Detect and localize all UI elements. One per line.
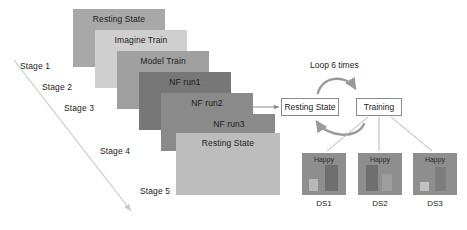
flow-box-training: Training (356, 98, 402, 116)
ds-panel-1: Happy (302, 153, 346, 195)
ds-plot-title: Happy (358, 156, 402, 163)
ds-panel-3: Happy (413, 153, 457, 195)
stage-label-4: Stage 4 (100, 146, 130, 156)
training-to-ds1-line (327, 117, 368, 151)
ds-caption-2: DS2 (358, 199, 402, 208)
flow-box-label: Training (364, 102, 394, 112)
ds-plot-title: Happy (302, 156, 346, 163)
ds-bar-2 (382, 174, 392, 191)
loop-caption: Loop 6 times (310, 60, 359, 70)
ds-bar-1 (309, 179, 318, 191)
ds-caption-3: DS3 (413, 199, 457, 208)
ds-bar-2 (325, 165, 338, 191)
loop-arc-top (318, 79, 355, 93)
ds-caption-1: DS1 (302, 199, 346, 208)
ds-bar-1 (366, 165, 378, 191)
protocol-flow-diagram: Resting State Imagine Train Model Train … (0, 0, 467, 230)
flow-box-resting-state: Resting State (281, 98, 339, 116)
stage-label-1: Stage 1 (20, 61, 50, 71)
ds-bar-2 (435, 167, 446, 191)
stage-label-3: Stage 3 (64, 103, 94, 113)
stage-card-label: Resting State (93, 14, 145, 24)
flow-box-label: Resting State (284, 102, 335, 112)
stage-label-5: Stage 5 (140, 186, 170, 196)
ds-panel-2: Happy (358, 153, 402, 195)
training-to-ds3-line (391, 117, 432, 151)
stage-card-label: NF run2 (191, 98, 222, 108)
stage-card-label: Resting State (202, 138, 254, 148)
stage-card-resting-state-2: Resting State (176, 133, 280, 195)
loop-arc-bottom (317, 122, 364, 135)
stage-label-2: Stage 2 (42, 82, 72, 92)
ds-bar-1 (420, 182, 429, 191)
ds-plot-title: Happy (413, 156, 457, 163)
stage-card-label: Imagine Train (115, 35, 168, 45)
stage-card-label: NF run3 (213, 119, 244, 129)
stage-card-label: NF run1 (169, 77, 200, 87)
stage-card-label: Model Train (140, 56, 186, 66)
